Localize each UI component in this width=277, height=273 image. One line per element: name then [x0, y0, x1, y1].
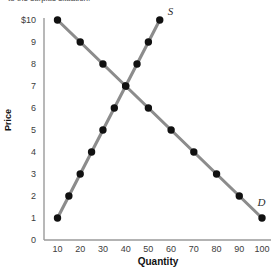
data-point-D [77, 38, 84, 45]
curve-line-D [58, 20, 263, 218]
data-point-D [167, 126, 174, 133]
y-tick-label: 5 [2, 126, 36, 135]
curve-line-S [58, 20, 160, 218]
chart-figure: to the surplus situation. Price Quantity… [0, 0, 277, 273]
data-point-S [133, 60, 140, 67]
y-tick-label: 9 [2, 38, 36, 47]
y-tick-label: 3 [2, 170, 36, 179]
data-point-S [111, 104, 118, 111]
data-point-S [122, 82, 129, 89]
data-point-S [54, 214, 61, 221]
data-point-S [65, 192, 72, 199]
data-point-D [236, 192, 243, 199]
series-S [54, 16, 164, 221]
data-point-D [54, 16, 61, 23]
data-point-S [99, 126, 106, 133]
plot-svg [0, 0, 277, 273]
y-tick-label: 8 [2, 60, 36, 69]
curve-label-D: D [257, 196, 265, 208]
data-point-D [145, 104, 152, 111]
data-point-D [213, 170, 220, 177]
curve-label-S: S [168, 5, 174, 17]
data-point-S [145, 38, 152, 45]
y-tick-label: 7 [2, 82, 36, 91]
data-point-S [77, 170, 84, 177]
y-tick-label: $10 [2, 16, 36, 25]
supply-demand-plot [0, 0, 277, 273]
data-point-D [99, 60, 106, 67]
data-point-D [258, 214, 265, 221]
x-axis-title: Quantity [44, 256, 272, 267]
x-tick-label: 100 [249, 245, 275, 254]
series-D [54, 16, 266, 221]
data-point-S [156, 16, 163, 23]
y-tick-label: 6 [2, 104, 36, 113]
data-point-D [190, 148, 197, 155]
y-tick-label: 4 [2, 148, 36, 157]
y-tick-label: 1 [2, 214, 36, 223]
y-tick-label: 2 [2, 192, 36, 201]
data-point-S [88, 148, 95, 155]
y-tick-label: 0 [2, 236, 36, 245]
